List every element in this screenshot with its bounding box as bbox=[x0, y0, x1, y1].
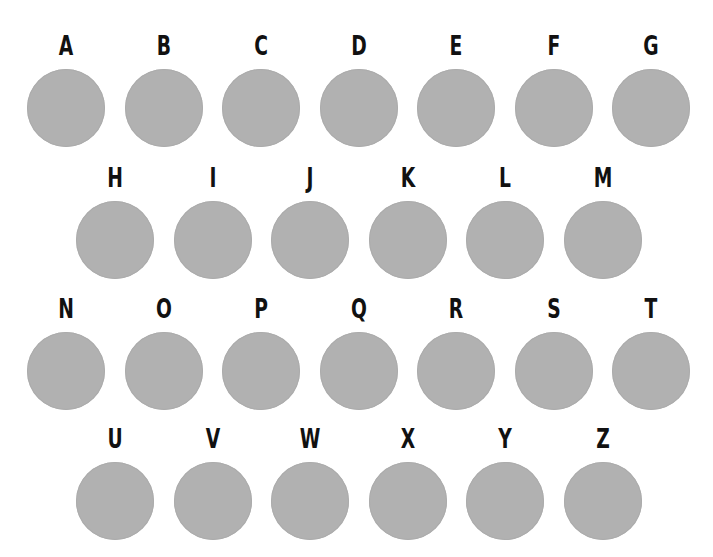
circle-n[interactable] bbox=[27, 332, 105, 410]
circle-k[interactable] bbox=[369, 201, 447, 279]
cell-h: H bbox=[75, 165, 155, 285]
cell-a: A bbox=[26, 33, 106, 153]
label-i: I bbox=[184, 165, 242, 191]
cell-n: N bbox=[26, 296, 106, 416]
circle-c[interactable] bbox=[222, 69, 300, 147]
circle-f[interactable] bbox=[515, 69, 593, 147]
cell-d: D bbox=[319, 33, 399, 153]
cell-q: Q bbox=[319, 296, 399, 416]
circle-p[interactable] bbox=[222, 332, 300, 410]
label-g: G bbox=[622, 33, 680, 59]
cell-c: C bbox=[221, 33, 301, 153]
label-r: R bbox=[427, 296, 485, 322]
label-x: X bbox=[379, 426, 437, 452]
cell-l: L bbox=[465, 165, 545, 285]
label-o: O bbox=[135, 296, 193, 322]
cell-f: F bbox=[514, 33, 594, 153]
cell-e: E bbox=[416, 33, 496, 153]
label-k: K bbox=[379, 165, 437, 191]
letter-circle-grid: A B C D E F G H bbox=[0, 0, 713, 557]
circle-x[interactable] bbox=[369, 462, 447, 540]
circle-m[interactable] bbox=[564, 201, 642, 279]
cell-g: G bbox=[611, 33, 691, 153]
label-c: C bbox=[232, 33, 290, 59]
circle-o[interactable] bbox=[125, 332, 203, 410]
circle-w[interactable] bbox=[271, 462, 349, 540]
label-h: H bbox=[86, 165, 144, 191]
circle-h[interactable] bbox=[76, 201, 154, 279]
cell-y: Y bbox=[465, 426, 545, 546]
cell-w: W bbox=[270, 426, 350, 546]
label-s: S bbox=[525, 296, 583, 322]
cell-v: V bbox=[173, 426, 253, 546]
cell-b: B bbox=[124, 33, 204, 153]
label-w: W bbox=[281, 426, 339, 452]
circle-e[interactable] bbox=[417, 69, 495, 147]
cell-r: R bbox=[416, 296, 496, 416]
cell-m: M bbox=[563, 165, 643, 285]
cell-k: K bbox=[368, 165, 448, 285]
label-p: P bbox=[232, 296, 290, 322]
circle-j[interactable] bbox=[271, 201, 349, 279]
label-l: L bbox=[476, 165, 534, 191]
circle-d[interactable] bbox=[320, 69, 398, 147]
label-a: A bbox=[37, 33, 95, 59]
label-m: M bbox=[574, 165, 632, 191]
circle-l[interactable] bbox=[466, 201, 544, 279]
circle-u[interactable] bbox=[76, 462, 154, 540]
label-q: Q bbox=[330, 296, 388, 322]
label-f: F bbox=[525, 33, 583, 59]
cell-z: Z bbox=[563, 426, 643, 546]
circle-t[interactable] bbox=[612, 332, 690, 410]
circle-a[interactable] bbox=[27, 69, 105, 147]
label-n: N bbox=[37, 296, 95, 322]
circle-s[interactable] bbox=[515, 332, 593, 410]
label-j: J bbox=[281, 165, 339, 191]
cell-p: P bbox=[221, 296, 301, 416]
circle-v[interactable] bbox=[174, 462, 252, 540]
label-d: D bbox=[330, 33, 388, 59]
label-z: Z bbox=[574, 426, 632, 452]
label-y: Y bbox=[476, 426, 534, 452]
label-b: B bbox=[135, 33, 193, 59]
cell-t: T bbox=[611, 296, 691, 416]
cell-x: X bbox=[368, 426, 448, 546]
cell-j: J bbox=[270, 165, 350, 285]
circle-g[interactable] bbox=[612, 69, 690, 147]
circle-q[interactable] bbox=[320, 332, 398, 410]
circle-r[interactable] bbox=[417, 332, 495, 410]
circle-y[interactable] bbox=[466, 462, 544, 540]
label-u: U bbox=[86, 426, 144, 452]
cell-s: S bbox=[514, 296, 594, 416]
label-e: E bbox=[427, 33, 485, 59]
label-t: T bbox=[622, 296, 680, 322]
circle-b[interactable] bbox=[125, 69, 203, 147]
circle-z[interactable] bbox=[564, 462, 642, 540]
cell-o: O bbox=[124, 296, 204, 416]
cell-u: U bbox=[75, 426, 155, 546]
label-v: V bbox=[184, 426, 242, 452]
circle-i[interactable] bbox=[174, 201, 252, 279]
cell-i: I bbox=[173, 165, 253, 285]
